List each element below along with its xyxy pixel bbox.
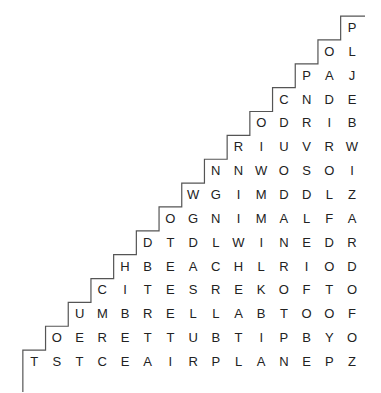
letter-cell: L (250, 256, 272, 278)
letter-cell: Y (318, 327, 340, 349)
letter-cell: B (114, 303, 136, 325)
letter-cell: N (273, 351, 295, 373)
letter-cell: T (137, 327, 159, 349)
letter-cell: I (159, 351, 181, 373)
letter-cell: B (205, 327, 227, 349)
letter-cell: B (296, 327, 318, 349)
letter-cell: R (91, 327, 113, 349)
letter-cell: E (296, 232, 318, 254)
letter-cell: O (318, 41, 340, 63)
letter-cell: E (341, 89, 363, 111)
letter-cell: V (296, 136, 318, 158)
letter-cell: O (318, 256, 340, 278)
letter-cell: A (273, 208, 295, 230)
letter-cell: L (318, 184, 340, 206)
letter-cell: R (341, 232, 363, 254)
letter-cell: R (182, 351, 204, 373)
letter-cell: E (114, 351, 136, 373)
letter-cell: W (182, 184, 204, 206)
letter-cell: J (341, 65, 363, 87)
letter-cell: I (250, 232, 272, 254)
letter-cell: T (137, 279, 159, 301)
letter-cell: F (341, 303, 363, 325)
letter-cell: N (205, 160, 227, 182)
letter-cell: E (114, 327, 136, 349)
letter-cell: L (296, 208, 318, 230)
letter-cell: N (296, 89, 318, 111)
letter-cell: R (228, 136, 250, 158)
letter-cell: D (296, 184, 318, 206)
letter-cell: E (296, 351, 318, 373)
letter-cell: O (341, 327, 363, 349)
letter-cell: N (205, 208, 227, 230)
letter-cell: H (114, 256, 136, 278)
letter-cell: M (250, 208, 272, 230)
letter-cell: P (273, 327, 295, 349)
letter-cell: D (318, 89, 340, 111)
letter-cell: T (69, 351, 91, 373)
letter-cell: E (159, 303, 181, 325)
letter-cell: R (296, 112, 318, 134)
letter-cell: B (137, 256, 159, 278)
letter-cell: T (228, 327, 250, 349)
letter-cell: I (228, 208, 250, 230)
letter-cell: P (318, 351, 340, 373)
letter-cell: A (318, 65, 340, 87)
letter-cell: K (250, 279, 272, 301)
letter-cell: R (273, 256, 295, 278)
letter-cell: D (318, 232, 340, 254)
letter-cell: O (159, 208, 181, 230)
letter-cell: A (228, 303, 250, 325)
letter-cell: A (137, 351, 159, 373)
letter-cell: G (182, 208, 204, 230)
letter-cell: S (182, 279, 204, 301)
letter-cell: O (296, 303, 318, 325)
letter-cell: D (273, 184, 295, 206)
letter-cell: A (341, 208, 363, 230)
letter-cell: D (341, 256, 363, 278)
letter-cell: R (205, 279, 227, 301)
letter-cell: L (182, 303, 204, 325)
letter-cell: B (250, 303, 272, 325)
letter-cell: C (91, 279, 113, 301)
letter-cell: F (296, 279, 318, 301)
letter-cell: I (296, 256, 318, 278)
letter-cell: E (69, 327, 91, 349)
letter-cell: F (318, 208, 340, 230)
letter-cell: L (205, 303, 227, 325)
letter-cell: G (205, 184, 227, 206)
letter-cell: C (273, 89, 295, 111)
letter-cell: T (159, 327, 181, 349)
letter-cell: T (273, 303, 295, 325)
letter-cell: A (182, 256, 204, 278)
letter-cell: N (228, 160, 250, 182)
letter-cell: Z (341, 184, 363, 206)
letter-cell: N (273, 232, 295, 254)
letter-cell: B (341, 112, 363, 134)
letter-cell: S (296, 160, 318, 182)
letter-cell: O (341, 279, 363, 301)
letter-cell: C (91, 351, 113, 373)
letter-cell: L (341, 41, 363, 63)
letter-cell: R (318, 136, 340, 158)
letter-cell: M (91, 303, 113, 325)
letter-cell: E (228, 279, 250, 301)
letter-cell: I (341, 160, 363, 182)
letter-cell: T (159, 232, 181, 254)
letter-cell: U (182, 327, 204, 349)
letter-cell: O (46, 327, 68, 349)
letter-cell: O (250, 112, 272, 134)
letter-cell: A (250, 351, 272, 373)
letter-cell: W (250, 160, 272, 182)
letter-cell: E (159, 279, 181, 301)
letter-cell: I (228, 184, 250, 206)
letter-cell: O (273, 279, 295, 301)
letter-cell: T (23, 351, 45, 373)
letter-cell: R (137, 303, 159, 325)
letter-cell: I (250, 327, 272, 349)
letter-cell: O (318, 160, 340, 182)
letter-cell: H (228, 256, 250, 278)
letter-cell: C (205, 256, 227, 278)
letter-cell: O (318, 303, 340, 325)
letter-cell: L (228, 351, 250, 373)
